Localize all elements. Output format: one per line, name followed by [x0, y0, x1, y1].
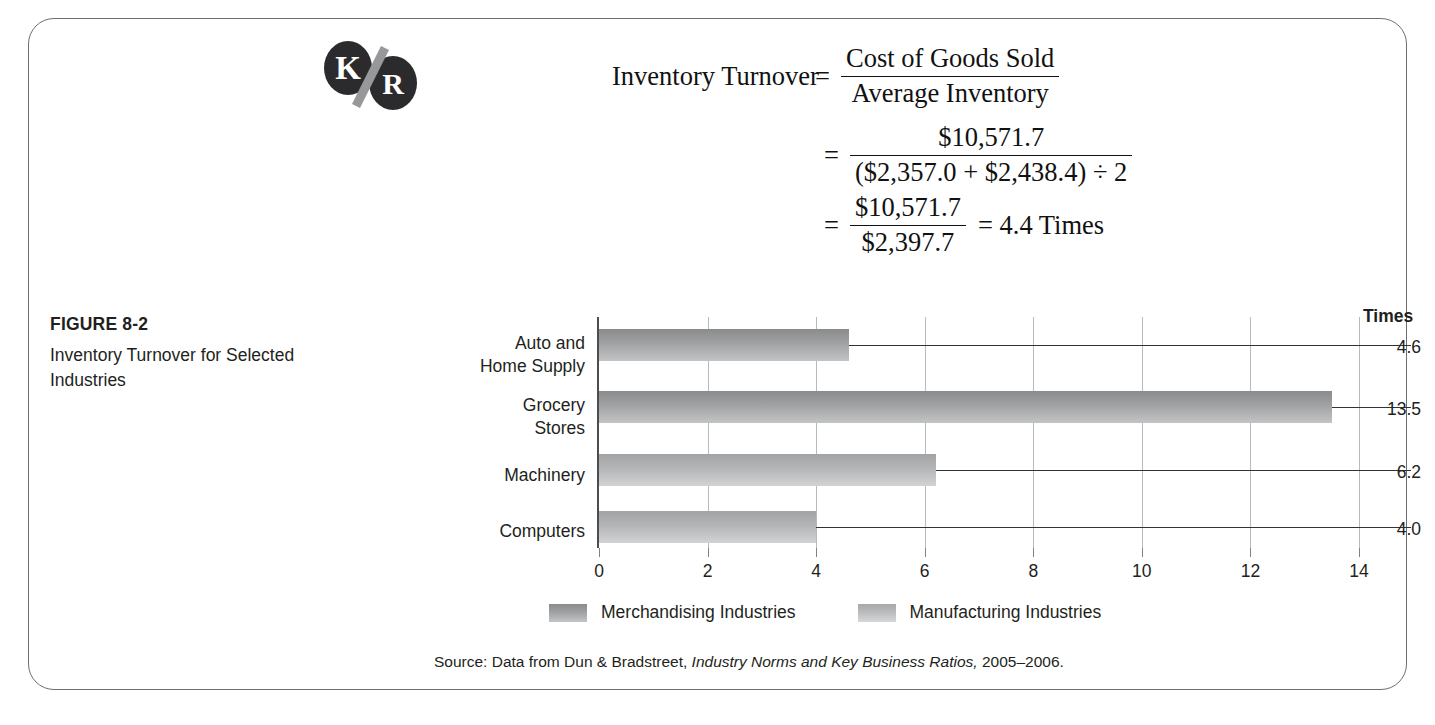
gridline [925, 317, 926, 548]
x-axis-tick-label: 14 [1339, 561, 1379, 582]
category-label-line: Computers [400, 520, 585, 543]
category-label-line: Home Supply [400, 355, 585, 378]
category-label: Computers [400, 520, 585, 543]
figure-description: Inventory Turnover for Selected Industri… [50, 343, 350, 393]
kr-logo-letter-k: K [335, 50, 361, 86]
category-label-line: Grocery [400, 394, 585, 417]
legend-swatch [858, 604, 896, 622]
legend-label: Merchandising Industries [601, 602, 796, 623]
bar [599, 511, 816, 543]
source-prefix: Source: Data from Dun & Bradstreet, [434, 653, 692, 670]
formula-denominator-1: Average Inventory [846, 79, 1053, 109]
formula-numerator-1: Cost of Goods Sold [841, 44, 1059, 74]
value-leader-line [936, 470, 1411, 471]
formula-fraction-bar-3 [850, 225, 966, 227]
formula-result: = 4.4 Times [966, 210, 1104, 241]
bar [599, 454, 936, 486]
formula-lhs-label: Inventory Turnover [612, 61, 804, 92]
category-label-line: Stores [400, 417, 585, 440]
formula-equals-1: = [804, 61, 841, 92]
formula-fraction-1: Cost of Goods Sold Average Inventory [841, 44, 1059, 109]
legend-label: Manufacturing Industries [910, 602, 1102, 623]
formula-line-2: = $10,571.7 ($2,357.0 + $2,438.4) ÷ 2 [813, 123, 1132, 188]
gridline [1250, 317, 1251, 548]
x-axis-tick-label: 2 [688, 561, 728, 582]
value-label: 4.0 [1363, 519, 1421, 540]
plot-area [599, 317, 1359, 548]
bar [599, 329, 849, 361]
gridline [1033, 317, 1034, 548]
x-axis-tick-label: 6 [905, 561, 945, 582]
figure-number: FIGURE 8-2 [50, 314, 350, 335]
formula-equals-3: = [813, 210, 850, 241]
x-axis-tick [1250, 548, 1251, 557]
value-leader-line [849, 345, 1411, 346]
source-suffix: 2005–2006. [978, 653, 1064, 670]
value-label: 13.5 [1363, 399, 1421, 420]
category-label-line: Auto and [400, 332, 585, 355]
x-axis-tick-label: 10 [1122, 561, 1162, 582]
source-italic-title: Industry Norms and Key Business Ratios, [692, 653, 978, 670]
x-axis-tick [599, 548, 600, 557]
x-axis-tick [1142, 548, 1143, 557]
legend-item: Manufacturing Industries [858, 602, 1102, 623]
formula-line-3: = $10,571.7 $2,397.7 = 4.4 Times [813, 193, 1104, 258]
source-note: Source: Data from Dun & Bradstreet, Indu… [434, 653, 1064, 671]
x-axis-tick [925, 548, 926, 557]
x-axis-tick [816, 548, 817, 557]
formula-numerator-3: $10,571.7 [850, 193, 966, 223]
category-label: Auto andHome Supply [400, 332, 585, 379]
formula-fraction-3: $10,571.7 $2,397.7 [850, 193, 966, 258]
category-axis-labels: Auto andHome SupplyGroceryStoresMachiner… [400, 306, 585, 524]
formula-denominator-2: ($2,357.0 + $2,438.4) ÷ 2 [850, 158, 1132, 188]
kr-logo-letter-r: R [382, 67, 404, 100]
gridline [1142, 317, 1143, 548]
formula-fraction-bar-2 [850, 155, 1132, 157]
formula-fraction-bar-1 [841, 76, 1059, 78]
value-leader-line [816, 527, 1411, 528]
x-axis-tick-label: 8 [1013, 561, 1053, 582]
figure-caption: FIGURE 8-2 Inventory Turnover for Select… [50, 314, 350, 393]
kr-logo: K R [318, 38, 426, 110]
gridline [1359, 317, 1360, 548]
kr-logo-graphic: K R [318, 38, 426, 110]
legend-swatch [549, 604, 587, 622]
formula-equals-2: = [813, 140, 850, 171]
formula-fraction-2: $10,571.7 ($2,357.0 + $2,438.4) ÷ 2 [850, 123, 1132, 188]
x-axis-tick-label: 0 [579, 561, 619, 582]
chart-legend: Merchandising IndustriesManufacturing In… [549, 602, 1101, 623]
formula-numerator-2: $10,571.7 [933, 123, 1049, 153]
formula-line-1: Inventory Turnover = Cost of Goods Sold … [612, 44, 1059, 109]
category-label: Machinery [400, 464, 585, 487]
bar [599, 391, 1332, 423]
figure-page: K R Inventory Turnover = Cost of Goods S… [0, 0, 1435, 725]
value-axis-header: Times [1363, 306, 1413, 327]
legend-item: Merchandising Industries [549, 602, 796, 623]
bar-chart: Auto andHome SupplyGroceryStoresMachiner… [400, 306, 1400, 556]
value-label: 4.6 [1363, 337, 1421, 358]
x-axis-tick-label: 4 [796, 561, 836, 582]
x-axis: 02468101214 [599, 548, 1379, 592]
x-axis-tick-label: 12 [1230, 561, 1270, 582]
category-label-line: Machinery [400, 464, 585, 487]
x-axis-tick [1359, 548, 1360, 557]
category-label: GroceryStores [400, 394, 585, 441]
value-label: 6.2 [1363, 462, 1421, 483]
formula-denominator-3: $2,397.7 [857, 228, 960, 258]
x-axis-tick [1033, 548, 1034, 557]
x-axis-tick [708, 548, 709, 557]
